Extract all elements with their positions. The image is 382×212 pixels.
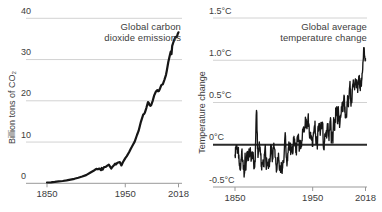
- temperature-change-line: [235, 48, 366, 177]
- co2-emissions-y-tick-label: 10: [21, 130, 31, 140]
- co2-emissions-x-tick-label: 1850: [27, 188, 67, 199]
- co2-emissions-x-tick-label: 2018: [159, 188, 199, 199]
- temperature-chart-title: Global average temperature change: [280, 22, 367, 43]
- temperature-change-y-tick-label: 1.0°C: [209, 48, 232, 58]
- co2-emissions-x-tick-label: 1950: [105, 188, 145, 199]
- co2-emissions-y-tick-label: 0: [21, 171, 26, 181]
- temperature-change-x-tick-label: 1950: [293, 192, 333, 203]
- temperature-change-y-tick-label: -0.5°C: [209, 175, 235, 185]
- co2-emissions-line: [47, 32, 179, 182]
- co2-chart-title-line-1: Global carbon: [104, 22, 181, 33]
- temperature-y-axis-title: Temperature change: [197, 28, 208, 198]
- temperature-change-x-tick-label: 1850: [215, 192, 255, 203]
- temperature-change-x-tick-label: 2018: [346, 192, 382, 203]
- temperature-change-y-tick-label: 0°C: [209, 132, 224, 142]
- co2-emissions-y-tick-label: 30: [21, 47, 31, 57]
- temperature-chart-title-line-2: temperature change: [280, 33, 367, 44]
- co2-chart-title-line-2: dioxide emissions: [104, 33, 181, 44]
- co2-emissions-y-tick-label: 40: [21, 6, 31, 16]
- co2-y-axis-title: Billion tons of CO₂: [7, 23, 18, 193]
- temperature-chart-title-line-1: Global average: [280, 22, 367, 33]
- dual-chart-figure: Billion tons of CO₂ Global carbon dioxid…: [0, 0, 382, 212]
- co2-chart-title: Global carbon dioxide emissions: [104, 22, 181, 43]
- temperature-change-y-tick-label: 1.5°C: [209, 6, 232, 16]
- co2-emissions-y-tick-label: 20: [21, 88, 31, 98]
- temperature-change-y-tick-label: 0.5°C: [209, 90, 232, 100]
